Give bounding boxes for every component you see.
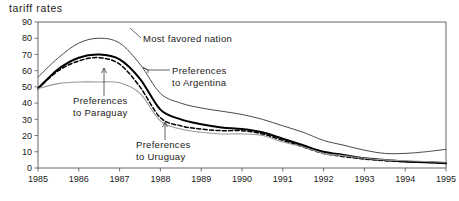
annotation-label: Preferences — [136, 139, 191, 150]
x-tick-label: 1994 — [395, 174, 415, 184]
tariff-rates-line-chart: 0102030405060708090 19851986198719881989… — [0, 0, 459, 201]
y-tick-label: 20 — [22, 131, 32, 141]
y-tick-label: 0 — [27, 163, 32, 173]
x-tick-label: 1985 — [28, 174, 48, 184]
y-tick-label: 10 — [22, 147, 32, 157]
annotation-label: to Argentina — [172, 77, 227, 88]
annotation-label: Preferences — [73, 95, 128, 106]
chart-title: tariff rates — [9, 2, 63, 14]
annotation-label: Preferences — [172, 65, 227, 76]
annotations-group: Most favored nationPreferencesto Argenti… — [73, 28, 232, 162]
y-tick-label: 70 — [22, 50, 32, 60]
series-line — [38, 82, 446, 163]
annotation-label: Most favored nation — [143, 33, 232, 44]
x-tick-label: 1987 — [110, 174, 130, 184]
x-tick-label: 1989 — [191, 174, 211, 184]
y-tick-label: 90 — [22, 17, 32, 27]
x-tick-label: 1990 — [232, 174, 252, 184]
chart-figure: tariff rates 0102030405060708090 1985198… — [0, 0, 459, 201]
y-tick-label: 50 — [22, 82, 32, 92]
x-tick-label: 1988 — [150, 174, 170, 184]
annotation-mfn: Most favored nation — [130, 28, 232, 44]
annotation-label: to Paraguay — [73, 107, 128, 118]
x-tick-label: 1992 — [314, 174, 334, 184]
x-tick-label: 1986 — [69, 174, 89, 184]
x-tick-label: 1991 — [273, 174, 293, 184]
y-tick-label: 40 — [22, 98, 32, 108]
annotation-label: to Uruguay — [136, 151, 185, 162]
y-tick-label: 30 — [22, 115, 32, 125]
x-tick-label: 1993 — [354, 174, 374, 184]
annotation-paraguay: Preferencesto Paraguay — [73, 68, 128, 118]
y-axis-tick-labels: 0102030405060708090 — [22, 17, 38, 173]
y-tick-label: 80 — [22, 33, 32, 43]
y-tick-label: 60 — [22, 66, 32, 76]
x-tick-label: 1995 — [436, 174, 456, 184]
annotation-uruguay: Preferencesto Uruguay — [136, 122, 191, 162]
x-axis-tick-labels: 1985198619871988198919901991199219931994… — [28, 168, 456, 184]
annotation-argentina: Preferencesto Argentina — [143, 65, 227, 88]
